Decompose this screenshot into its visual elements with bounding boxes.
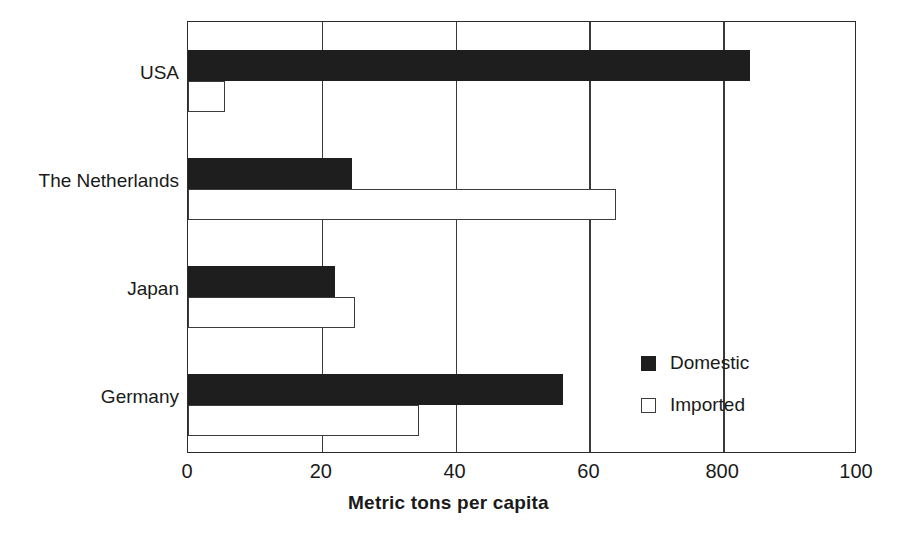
bar-usa-imported	[188, 81, 225, 112]
legend-item-imported: Imported	[641, 394, 749, 416]
bar-germany-imported	[188, 405, 419, 436]
bar-japan-imported	[188, 297, 355, 328]
category-label-japan: Japan	[0, 278, 187, 300]
x-tick-label-0: 0	[181, 460, 192, 483]
x-tick-label-20: 20	[310, 460, 332, 483]
category-label-usa: USA	[0, 62, 187, 84]
gridline-60	[589, 22, 591, 452]
legend-swatch-imported-icon	[641, 398, 656, 413]
legend-swatch-domestic-icon	[641, 356, 656, 371]
x-axis-title: Metric tons per capita	[0, 492, 897, 514]
bar-chart: USAThe NetherlandsJapanGermany 020406080…	[0, 0, 897, 540]
category-label-germany: Germany	[0, 386, 187, 408]
x-tick-label-60: 60	[577, 460, 599, 483]
bar-usa-domestic	[188, 50, 750, 81]
chart-legend: DomesticImported	[641, 352, 749, 416]
legend-item-domestic: Domestic	[641, 352, 749, 374]
bar-japan-domestic	[188, 266, 335, 297]
x-tick-label-100: 100	[839, 460, 872, 483]
legend-label-domestic: Domestic	[670, 352, 749, 374]
x-tick-label-40: 40	[443, 460, 465, 483]
plot-area	[187, 21, 856, 453]
bar-the-netherlands-domestic	[188, 158, 352, 189]
bar-the-netherlands-imported	[188, 189, 616, 220]
category-label-the-netherlands: The Netherlands	[0, 170, 187, 192]
legend-label-imported: Imported	[670, 394, 745, 416]
bar-germany-domestic	[188, 374, 563, 405]
x-tick-label-80: 800	[706, 460, 739, 483]
